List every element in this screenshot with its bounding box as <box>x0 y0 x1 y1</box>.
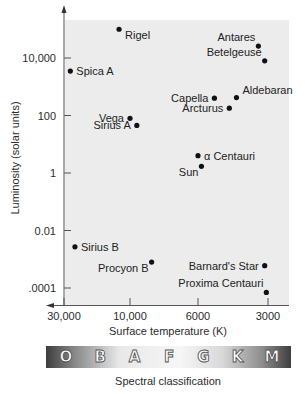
y-tick-label: 100 <box>38 110 56 122</box>
star-label: α Centauri <box>204 150 255 162</box>
y-tick-label: 0.01 <box>35 225 56 237</box>
x-tick-label: 10,000 <box>113 310 147 322</box>
star-point <box>212 96 217 101</box>
y-axis-arrow-icon <box>62 5 67 13</box>
hr-diagram: 10,00010010.01.0001 30,00010,00060003000… <box>0 0 305 394</box>
star-point <box>234 95 239 100</box>
y-tick-label: 1 <box>50 167 56 179</box>
star-label: Procyon B <box>98 262 149 274</box>
x-axis-arrow-icon <box>46 303 54 308</box>
star-point <box>262 58 267 63</box>
spectral-class-letter: B <box>95 348 106 366</box>
star-label: Sirius B <box>81 241 119 253</box>
star-point <box>195 153 200 158</box>
star-label: Rigel <box>125 29 150 41</box>
star-label: Aldebaran <box>242 84 292 96</box>
x-tick-label: 30,000 <box>47 310 81 322</box>
star-point <box>149 259 154 264</box>
star-label: Arcturus <box>182 102 223 114</box>
star-label: Proxima Centauri <box>178 277 263 289</box>
star-point <box>134 123 139 128</box>
star-label: Betelgeuse <box>207 46 262 58</box>
star-point <box>199 164 204 169</box>
star-point <box>262 263 267 268</box>
spectral-class-letter: G <box>197 348 209 366</box>
x-axis-title: Surface temperature (K) <box>109 325 227 337</box>
spectral-class-letter: A <box>129 348 141 366</box>
x-tick-label: 6000 <box>186 310 210 322</box>
star-point <box>72 244 77 249</box>
spectral-class-letter: M <box>265 348 280 366</box>
star-label: Sirius A <box>94 119 132 131</box>
y-tick-label: 10,000 <box>22 52 56 64</box>
star-point <box>116 27 121 32</box>
star-label: Barnard's Star <box>189 260 259 272</box>
spectral-class-letter: K <box>232 348 245 366</box>
star-label: Spica A <box>76 65 114 77</box>
y-axis-title: Luminosity (solar units) <box>9 101 21 214</box>
y-tick-label: .0001 <box>28 282 56 294</box>
x-tick-label: 3000 <box>256 310 280 322</box>
spectral-class-letter: F <box>164 348 174 366</box>
star-point <box>264 290 269 295</box>
star-label: Sun <box>179 166 199 178</box>
star-label: Antares <box>217 31 255 43</box>
spectral-class-letter: O <box>60 348 73 366</box>
spectral-bar-title: Spectral classification <box>115 375 221 387</box>
star-point <box>227 106 232 111</box>
star-point <box>68 69 73 74</box>
